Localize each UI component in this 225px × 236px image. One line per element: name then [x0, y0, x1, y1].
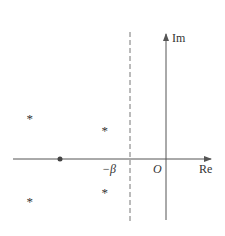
svg-text:*: * — [102, 123, 109, 138]
svg-text:*: * — [102, 185, 109, 200]
pole-marker-upper-near: * — [102, 123, 109, 138]
minus-beta-label: −β — [102, 162, 116, 176]
pole-marker-lower-left: * — [27, 194, 34, 209]
real-axis-label: Re — [199, 162, 212, 176]
svg-text:*: * — [27, 111, 34, 126]
pole-marker-real-axis — [58, 157, 63, 162]
svg-text:*: * — [27, 194, 34, 209]
origin-label: O — [153, 162, 162, 176]
imag-axis-label: Im — [172, 31, 186, 45]
pole-marker-lower-near: * — [102, 185, 109, 200]
complex-plane-diagram: Im Re O −β * * * * — [0, 0, 225, 236]
pole-marker-upper-left: * — [27, 111, 34, 126]
